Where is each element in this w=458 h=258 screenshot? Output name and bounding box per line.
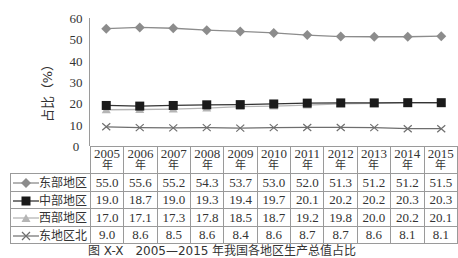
y-tick-label: 30 [70, 75, 83, 90]
legend-cell: 东部地区 [11, 174, 91, 192]
table-cell: 20.1 [424, 209, 457, 227]
square-marker-icon [403, 98, 412, 107]
square-marker-icon [303, 99, 312, 108]
legend-label: 东部地区 [39, 176, 87, 190]
table-cell: 20.2 [391, 209, 424, 227]
table-cell: 17.8 [191, 209, 224, 227]
diamond-marker-icon [403, 32, 413, 42]
diamond-marker-icon [269, 28, 279, 38]
diamond-marker-icon [336, 32, 346, 42]
table-cell: 51.2 [391, 174, 424, 192]
table-header-year: 2011年 [291, 147, 324, 174]
x-marker-icon [13, 227, 39, 242]
table-cell: 17.1 [124, 209, 157, 227]
triangle-marker-icon [13, 209, 39, 224]
table-cell: 19.0 [157, 191, 190, 209]
table-cell: 53.0 [257, 174, 290, 192]
y-tick-label: 10 [70, 118, 83, 133]
square-marker-icon [236, 100, 245, 109]
table-cell: 52.0 [291, 174, 324, 192]
table-header-year: 2014年 [391, 147, 424, 174]
square-marker-icon [370, 98, 379, 107]
table-header-year: 2009年 [224, 147, 257, 174]
table-row: 东部地区55.055.655.254.353.753.052.051.351.2… [11, 174, 458, 192]
square-marker-icon [135, 102, 144, 111]
table-header-year: 2010年 [257, 147, 290, 174]
table-cell: 18.7 [124, 191, 157, 209]
square-marker-icon [13, 192, 39, 207]
table-header-year: 2008年 [191, 147, 224, 174]
legend-cell: 中部地区 [11, 191, 91, 209]
table-cell: 19.7 [257, 191, 290, 209]
table-cell: 19.8 [324, 209, 357, 227]
table-cell: 55.2 [157, 174, 190, 192]
square-marker-icon [437, 98, 446, 107]
legend-label: 东地区北 [39, 228, 87, 242]
table-cell: 19.4 [224, 191, 257, 209]
diamond-marker-icon [436, 31, 446, 41]
table-header-year: 2005年 [90, 147, 123, 174]
table-cell: 20.3 [391, 191, 424, 209]
table-cell: 8.1 [391, 226, 424, 244]
series-lines [101, 22, 446, 132]
table-cell: 20.2 [357, 191, 390, 209]
square-marker-icon [102, 101, 111, 110]
square-marker-icon [202, 100, 211, 109]
table-cell: 54.3 [191, 174, 224, 192]
table-header-year: 2007年 [157, 147, 190, 174]
diamond-marker-icon [369, 32, 379, 42]
diamond-marker-icon [235, 26, 245, 36]
table-cell: 51.5 [424, 174, 457, 192]
square-marker-icon [336, 98, 345, 107]
figure-caption: 图 X-X 2005—2015 年我国各地区生产总值占比 [88, 241, 356, 258]
table-header-year: 2015年 [424, 147, 457, 174]
y-tick-label: 40 [70, 54, 83, 69]
legend-cell: 西部地区 [11, 209, 91, 227]
table-header-row: 2005年2006年2007年2008年2009年2010年2011年2012年… [11, 147, 458, 174]
table-cell: 51.3 [324, 174, 357, 192]
table-corner [11, 147, 91, 174]
diamond-marker-icon [13, 174, 39, 189]
diamond-marker-icon [202, 25, 212, 35]
table-cell: 17.0 [90, 209, 123, 227]
y-axis: 0102030405060 占比（%） [40, 11, 90, 154]
table-cell: 8.6 [357, 226, 390, 244]
table-header-year: 2012年 [324, 147, 357, 174]
square-marker-icon [269, 99, 278, 108]
table-cell: 20.0 [357, 209, 390, 227]
data-table: 2005年2006年2007年2008年2009年2010年2011年2012年… [10, 146, 458, 244]
y-tick-label: 50 [70, 32, 83, 47]
table-row: 中部地区19.018.719.019.319.419.720.120.220.2… [11, 191, 458, 209]
table-cell: 20.2 [324, 191, 357, 209]
y-tick-label: 20 [70, 96, 83, 111]
table-cell: 53.7 [224, 174, 257, 192]
table-cell: 55.0 [90, 174, 123, 192]
table-cell: 55.6 [124, 174, 157, 192]
table-cell: 19.3 [191, 191, 224, 209]
series-0 [101, 22, 446, 41]
diamond-marker-icon [101, 24, 111, 34]
table-cell: 18.5 [224, 209, 257, 227]
diamond-marker-icon [168, 23, 178, 33]
series-3 [102, 123, 445, 132]
table-cell: 20.3 [424, 191, 457, 209]
table-header-year: 2006年 [124, 147, 157, 174]
table-cell: 8.1 [424, 226, 457, 244]
table-header-year: 2013年 [357, 147, 390, 174]
y-axis-label: 占比（%） [40, 58, 55, 122]
legend-label: 西部地区 [39, 211, 87, 225]
table-cell: 18.7 [257, 209, 290, 227]
diamond-marker-icon [135, 22, 145, 32]
legend-cell: 东地区北 [11, 226, 91, 244]
square-marker-icon [169, 101, 178, 110]
table-row: 西部地区17.017.117.317.818.518.719.219.820.0… [11, 209, 458, 227]
table-cell: 17.3 [157, 209, 190, 227]
table-cell: 19.0 [90, 191, 123, 209]
legend-label: 中部地区 [39, 193, 87, 207]
y-tick-label: 60 [70, 11, 83, 26]
table-cell: 51.2 [357, 174, 390, 192]
diamond-marker-icon [302, 30, 312, 40]
table-cell: 19.2 [291, 209, 324, 227]
table-cell: 20.1 [291, 191, 324, 209]
